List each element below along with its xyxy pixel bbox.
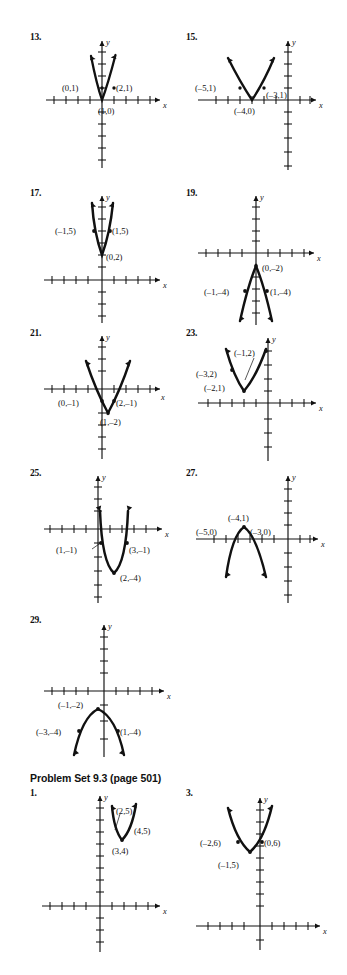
vertex-label: (–1,–2)	[58, 700, 83, 710]
point-label-right: (2,1)	[116, 83, 133, 93]
graph-3: (–2,6) (0,6) (–1,5) x y	[192, 788, 334, 968]
vertex-label: (–1,5)	[218, 860, 239, 870]
point-label-left: (–5,1)	[195, 83, 216, 93]
point-label-right: (3,–1)	[129, 545, 150, 555]
graph-27: (–4,1) (–5,0) (–3,0) x y	[192, 463, 334, 608]
y-axis-label: y	[259, 193, 264, 202]
x-axis-label: x	[166, 692, 171, 701]
point-label-left: (2,5)	[116, 806, 133, 816]
point-label-left: (0,1)	[62, 83, 79, 93]
x-axis-label: x	[162, 281, 167, 290]
y-axis-label: y	[271, 335, 276, 344]
point-label-left: (–1,5)	[55, 226, 76, 236]
y-axis-label: y	[107, 622, 112, 631]
problem-21: 21.	[0, 325, 175, 465]
point-label-left: (1,–1)	[56, 545, 77, 555]
y-axis-label: y	[291, 473, 296, 482]
vertex-label: (2,–4)	[120, 573, 141, 583]
point-label-right: (–3,0)	[250, 527, 271, 537]
x-axis-label: x	[164, 530, 169, 539]
point-label-right: (–3,1)	[266, 90, 287, 100]
point-label-right: (–1,2)	[234, 348, 255, 358]
graph-29: (–1,–2) (–3,–4) (1,–4) x y	[36, 605, 178, 760]
x-axis-label: x	[320, 540, 325, 549]
problem-1: 1.	[0, 788, 175, 968]
y-axis-label: y	[105, 193, 110, 202]
graph-23: (–1,2) (–3,2) (–2,1) x y	[192, 325, 332, 465]
y-axis-label: y	[105, 38, 110, 47]
point-label-right: (1,–4)	[270, 287, 291, 297]
problem-29: 29.	[0, 605, 175, 760]
problem-23: 23.	[172, 325, 347, 465]
vertex-label: (1,0)	[98, 106, 115, 116]
problem-15: 15.	[172, 28, 347, 178]
graph-19: (0,–2) (–1,–4) (1,–4) x y	[192, 185, 332, 330]
point-label-right: (4,5)	[134, 826, 151, 836]
point-label-left: (–5,0)	[196, 527, 217, 537]
point-label-right: (1,–4)	[120, 727, 141, 737]
x-axis-label: x	[316, 254, 321, 263]
point-label-right: (2,–1)	[116, 398, 137, 408]
vertex-label: (–4,1)	[228, 513, 249, 523]
section-heading: Problem Set 9.3 (page 501)	[30, 772, 161, 784]
vertex-label: (–4,0)	[234, 106, 255, 116]
y-axis-label: y	[105, 333, 110, 342]
textbook-answer-page: 13.	[0, 0, 347, 975]
vertex-label: (–2,1)	[204, 383, 225, 393]
graph-15: (–5,1) (–3,1) (–4,0) x y	[192, 28, 332, 176]
point-label-left: (–2,6)	[200, 838, 221, 848]
graph-21: (0,–1) (2,–1) (1,–2) x y	[36, 325, 176, 465]
x-axis-label: x	[160, 393, 165, 402]
point-label-left: (–3,2)	[196, 369, 217, 379]
x-axis-label: x	[318, 404, 323, 413]
x-axis-label: x	[162, 101, 167, 110]
y-axis-label: y	[101, 473, 106, 482]
problem-13: 13.	[0, 28, 175, 178]
problem-3: 3.	[172, 788, 347, 968]
vertex-label: (1,–2)	[100, 417, 121, 427]
x-axis-label: x	[162, 907, 167, 916]
vertex-label: (0,–2)	[262, 263, 283, 273]
point-label-left: (–1,–4)	[204, 287, 229, 297]
problem-17: 17.	[0, 185, 175, 330]
point-label-left: (–3,–4)	[36, 727, 61, 737]
vertex-label: (3,4)	[112, 846, 129, 856]
problem-25: 25.	[0, 463, 175, 608]
point-label-left: (0,–1)	[58, 398, 79, 408]
graph-25: (1,–1) (3,–1) (2,–4) x y	[36, 463, 176, 608]
vertex-label: (0,2)	[106, 252, 123, 262]
x-axis-label: x	[318, 101, 323, 110]
problem-19: 19.	[172, 185, 347, 330]
problem-27: 27.	[172, 463, 347, 608]
graph-13: (0,1) (2,1) (1,0) x y	[36, 28, 176, 176]
y-axis-label: y	[103, 793, 108, 802]
y-axis-label: y	[263, 795, 268, 804]
graph-17: (–1,5) (1,5) (0,2) x y	[36, 185, 176, 330]
y-axis-label: y	[291, 38, 296, 47]
x-axis-label: x	[322, 927, 327, 936]
point-label-right: (1,5)	[112, 226, 129, 236]
point-label-right: (0,6)	[264, 838, 281, 848]
graph-1: (2,5) (4,5) (3,4) x y	[36, 788, 176, 968]
